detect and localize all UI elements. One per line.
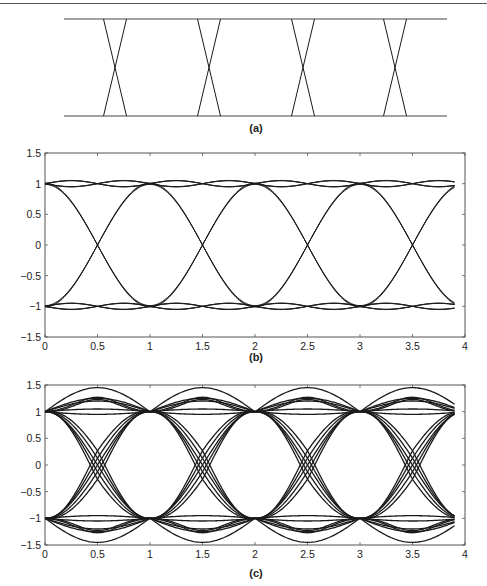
svg-text:0: 0 [42,548,48,560]
panel-a-schematic [64,19,447,116]
panel-c-eye-diagram-isi: 00.511.522.533.54−1.5−1−0.500.511.5 [20,379,468,560]
svg-text:3.5: 3.5 [405,340,420,352]
svg-text:−0.5: −0.5 [20,486,41,498]
svg-text:4: 4 [462,340,468,352]
svg-text:1: 1 [35,406,41,418]
svg-text:3: 3 [357,548,363,560]
svg-text:−1.5: −1.5 [20,331,41,343]
svg-text:−1: −1 [29,512,41,524]
svg-text:0: 0 [35,239,41,251]
svg-text:0.5: 0.5 [90,340,105,352]
caption-c: (c) [249,567,262,579]
svg-text:1: 1 [35,178,41,190]
svg-text:3.5: 3.5 [405,548,420,560]
svg-text:1.5: 1.5 [26,379,41,391]
svg-text:−0.5: −0.5 [20,270,41,282]
svg-text:2.5: 2.5 [300,340,315,352]
svg-text:2: 2 [252,548,258,560]
svg-text:1.5: 1.5 [195,548,210,560]
svg-text:−1: −1 [29,300,41,312]
svg-text:0: 0 [42,340,48,352]
svg-text:2.5: 2.5 [300,548,315,560]
svg-text:1: 1 [147,340,153,352]
svg-text:−1.5: −1.5 [20,539,41,551]
svg-text:3: 3 [357,340,363,352]
eye-diagram-figure: 00.511.522.533.54−1.5−1−0.500.511.5 00.5… [0,0,487,586]
caption-b: (b) [249,351,263,363]
svg-text:0: 0 [35,459,41,471]
svg-text:0.5: 0.5 [90,548,105,560]
svg-text:4: 4 [462,548,468,560]
caption-a: (a) [249,122,262,134]
svg-text:1: 1 [147,548,153,560]
svg-text:0.5: 0.5 [26,432,41,444]
panel-b-eye-diagram: 00.511.522.533.54−1.5−1−0.500.511.5 [20,147,468,352]
svg-text:1.5: 1.5 [26,147,41,159]
svg-text:1.5: 1.5 [195,340,210,352]
svg-text:0.5: 0.5 [26,208,41,220]
